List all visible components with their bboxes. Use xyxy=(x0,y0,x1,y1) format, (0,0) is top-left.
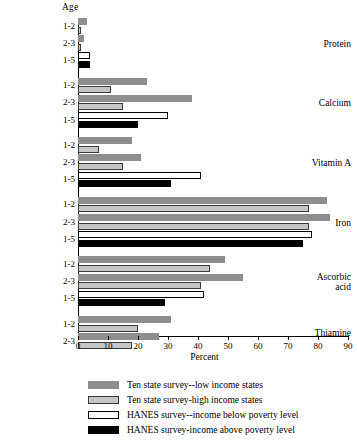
x-tick-label: 50 xyxy=(216,341,240,351)
bar xyxy=(78,172,201,179)
legend-swatch xyxy=(88,411,119,419)
age-tick-label: 1-5 xyxy=(58,56,75,65)
x-tick-label: 90 xyxy=(336,341,357,351)
nutrient-label: Calcium xyxy=(279,98,351,108)
age-axis-title: Age xyxy=(62,2,78,12)
bar xyxy=(78,333,159,340)
x-tick-label: 60 xyxy=(246,341,270,351)
age-tick-label: 1-2 xyxy=(58,22,75,31)
bar xyxy=(78,231,312,238)
age-tick-label: 1-5 xyxy=(58,116,75,125)
bar xyxy=(78,256,225,263)
legend-label: Ten state survey--low income states xyxy=(127,379,263,391)
bar xyxy=(78,86,111,93)
x-axis-title: Percent xyxy=(0,352,351,362)
x-tick-label: 30 xyxy=(156,341,180,351)
x-tick xyxy=(288,336,289,340)
legend-swatch xyxy=(88,381,119,389)
age-tick-label: 1-2 xyxy=(58,81,75,90)
bar xyxy=(78,52,90,59)
nutrient-label-line: Vitamin A xyxy=(279,158,351,168)
bar xyxy=(78,282,201,289)
x-tick xyxy=(258,336,259,340)
bar xyxy=(78,112,168,119)
legend-item: Ten state survey--low income states xyxy=(88,379,351,394)
age-tick-label: 1-2 xyxy=(58,320,75,329)
bar xyxy=(78,154,141,161)
bar xyxy=(78,44,81,51)
x-tick xyxy=(138,336,139,340)
age-tick-label: 2-3 xyxy=(58,39,75,48)
bar xyxy=(78,316,171,323)
legend-label: Ten state survey-high income states xyxy=(127,394,262,406)
nutrient-label: Vitamin A xyxy=(279,158,351,168)
bar xyxy=(78,146,99,153)
bar xyxy=(78,95,192,102)
bar xyxy=(78,61,90,68)
legend-item: HANES survey--income below poverty level xyxy=(88,409,351,424)
nutrient-label-line: acid xyxy=(279,282,351,292)
age-tick-label: 2-3 xyxy=(58,158,75,167)
age-tick-label: 2-3 xyxy=(58,98,75,107)
x-tick xyxy=(198,336,199,340)
nutrient-label-line: Protein xyxy=(279,39,351,49)
x-tick xyxy=(228,336,229,340)
nutrient-label-line: Iron xyxy=(279,218,351,228)
x-tick-label: 70 xyxy=(276,341,300,351)
age-tick-label: 1-2 xyxy=(58,141,75,150)
x-tick-label: 0 xyxy=(66,341,90,351)
bar xyxy=(78,205,309,212)
age-tick-label: 2-3 xyxy=(58,218,75,227)
bar xyxy=(78,180,171,187)
nutrient-label: Protein xyxy=(279,39,351,49)
bar xyxy=(78,325,138,332)
x-tick xyxy=(348,336,349,340)
age-tick-label: 2-3 xyxy=(58,277,75,286)
x-tick-label: 40 xyxy=(186,341,210,351)
legend-label: HANES survey--income below poverty level xyxy=(127,409,298,421)
nutrient-label: Iron xyxy=(279,218,351,228)
bar xyxy=(78,265,210,272)
bar xyxy=(78,223,309,230)
age-tick-label: 1-5 xyxy=(58,235,75,244)
bar xyxy=(78,121,138,128)
bar xyxy=(78,103,123,110)
legend-swatch xyxy=(88,426,119,434)
age-tick-label: 1-2 xyxy=(58,200,75,209)
bar xyxy=(78,197,327,204)
nutrient-label-line: Thiamine xyxy=(279,328,351,338)
x-tick-label: 20 xyxy=(126,341,150,351)
bar xyxy=(78,163,123,170)
legend-label: HANES survey-income above poverty level xyxy=(127,424,295,436)
legend-item: HANES survey-income above poverty level xyxy=(88,424,351,439)
nutrient-label-line: Calcium xyxy=(279,98,351,108)
legend: Ten state survey--low income statesTen s… xyxy=(88,379,351,439)
x-tick xyxy=(168,336,169,340)
age-tick-label: 1-5 xyxy=(58,175,75,184)
bar xyxy=(78,27,81,34)
x-tick-label: 10 xyxy=(96,341,120,351)
legend-swatch xyxy=(88,396,119,404)
bar xyxy=(78,18,87,25)
x-tick xyxy=(108,336,109,340)
nutrient-label: Thiamine xyxy=(279,328,351,338)
nutrient-label-line: Ascorbic xyxy=(279,272,351,282)
nutrient-label-column xyxy=(0,0,56,318)
bar xyxy=(78,240,303,247)
x-tick xyxy=(78,336,79,340)
age-tick-label: 1-5 xyxy=(58,294,75,303)
legend-item: Ten state survey-high income states xyxy=(88,394,351,409)
bar xyxy=(78,137,132,144)
nutrient-label: Ascorbicacid xyxy=(279,272,351,292)
bar xyxy=(78,299,165,306)
x-tick-label: 80 xyxy=(306,341,330,351)
age-tick-label: 1-2 xyxy=(58,260,75,269)
x-tick xyxy=(318,336,319,340)
bar xyxy=(78,274,243,281)
bar xyxy=(78,35,84,42)
bar xyxy=(78,78,147,85)
bar xyxy=(78,291,204,298)
